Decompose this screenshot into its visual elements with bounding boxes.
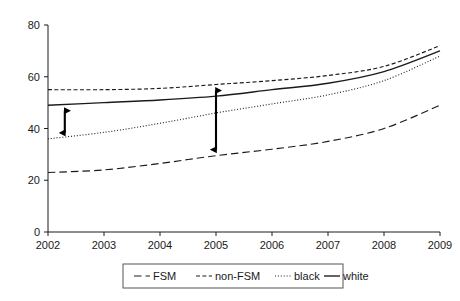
y-tick-label: 60: [28, 71, 40, 83]
x-tick-label: 2003: [92, 239, 116, 251]
chart-legend: FSMnon-FSMblackwhite: [123, 264, 369, 288]
y-tick-label: 0: [34, 226, 40, 238]
x-tick-label: 2004: [148, 239, 172, 251]
legend-label-black: black: [294, 270, 320, 282]
x-tick-label: 2007: [316, 239, 340, 251]
legend-label-non-fsm: non-FSM: [215, 270, 260, 282]
x-tick-label: 2006: [260, 239, 284, 251]
legend-label-fsm: FSM: [153, 270, 176, 282]
legend-label-white: white: [342, 270, 369, 282]
x-tick-label: 2005: [204, 239, 228, 251]
y-tick-label: 40: [28, 123, 40, 135]
y-tick-label: 20: [28, 174, 40, 186]
line-chart: 020406080 200220032004200520062007200820…: [0, 0, 460, 301]
x-tick-label: 2008: [372, 239, 396, 251]
x-tick-label: 2009: [428, 239, 452, 251]
chart-figure: 020406080 200220032004200520062007200820…: [0, 0, 460, 301]
y-tick-label: 80: [28, 19, 40, 31]
x-tick-label: 2002: [36, 239, 60, 251]
chart-background: [0, 0, 460, 301]
